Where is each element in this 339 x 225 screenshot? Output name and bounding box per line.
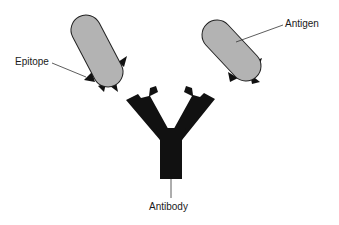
antigen-right (217, 35, 262, 84)
antigen-label: Antigen (285, 19, 319, 29)
antibody (126, 86, 215, 179)
antigen-left (84, 30, 127, 92)
antibody-hinge (156, 128, 186, 140)
antibody-label: Antibody (149, 202, 188, 212)
antibody-antigen-diagram (0, 0, 339, 225)
epitope-leader-line (52, 63, 86, 77)
antigen-leader-line (236, 25, 283, 42)
epitope-label: Epitope (15, 57, 49, 67)
